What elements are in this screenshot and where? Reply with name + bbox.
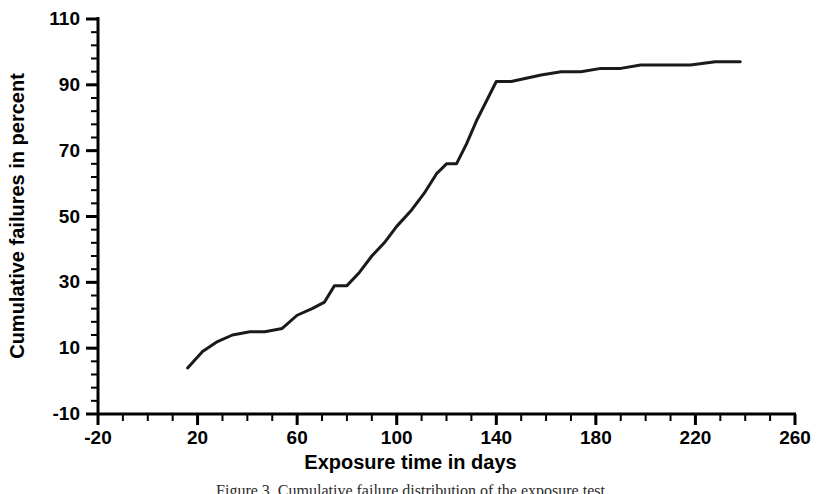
y-axis-major-ticks [86, 19, 98, 414]
axis-tick-label: 30 [59, 272, 80, 291]
axis-tick-label: 180 [580, 428, 612, 447]
axis-tick-label: 50 [59, 207, 80, 226]
axis-tick-label: 100 [381, 428, 413, 447]
axis-tick-label: 70 [59, 141, 80, 160]
axis-tick-label: 60 [287, 428, 308, 447]
axis-tick-label: 140 [480, 428, 512, 447]
chart-figure: Cumulative failures in percent Exposure … [0, 0, 821, 494]
axis-tick-label: -20 [84, 428, 111, 447]
data-series-line [188, 62, 741, 368]
axis-tick-label: 10 [59, 338, 80, 357]
axis-tick-label: 20 [187, 428, 208, 447]
x-axis-title: Exposure time in days [0, 451, 821, 474]
axis-tick-label: 110 [49, 9, 80, 28]
axis-tick-label: -10 [53, 404, 80, 423]
axis-tick-label: 90 [59, 75, 80, 94]
figure-caption: Figure 3. Cumulative failure distributio… [0, 482, 821, 494]
chart-canvas: Cumulative failures in percent [0, 0, 821, 494]
y-axis-title: Cumulative failures in percent [6, 73, 28, 359]
axis-tick-label: 260 [779, 428, 811, 447]
axis-tick-label: 220 [680, 428, 712, 447]
